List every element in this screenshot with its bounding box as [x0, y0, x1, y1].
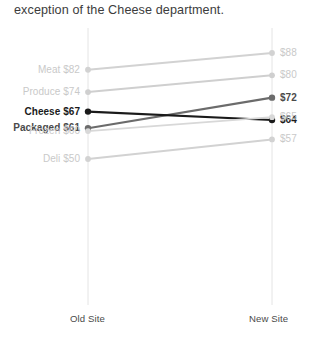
- right-label-meat: $88: [280, 47, 297, 58]
- slope-line-produce[interactable]: [88, 75, 272, 92]
- right-label-packaged: $72: [280, 92, 297, 103]
- data-point-cheese-old-site[interactable]: [85, 108, 91, 114]
- left-label-frozen: Frozen $60: [29, 125, 80, 136]
- plot-area: Meat $82$88Produce $74$80Packaged $61$72…: [0, 0, 311, 340]
- data-point-frozen-old-site[interactable]: [85, 128, 91, 134]
- data-point-frozen-new-site[interactable]: [269, 114, 275, 120]
- axis-gridlines: [88, 28, 272, 305]
- data-point-packaged-new-site[interactable]: [269, 94, 275, 100]
- slope-lines-group: [88, 53, 272, 159]
- left-label-cheese: Cheese $67: [24, 106, 80, 117]
- left-label-meat: Meat $82: [38, 64, 80, 75]
- data-point-produce-old-site[interactable]: [85, 89, 91, 95]
- data-point-deli-old-site[interactable]: [85, 156, 91, 162]
- slope-line-meat[interactable]: [88, 53, 272, 70]
- right-label-produce: $80: [280, 69, 297, 80]
- slope-line-deli[interactable]: [88, 139, 272, 159]
- axis-label-old-site: Old Site: [70, 313, 105, 324]
- left-label-produce: Produce $74: [23, 86, 80, 97]
- right-label-frozen: $65: [280, 111, 297, 122]
- left-label-deli: Deli $50: [43, 153, 80, 164]
- axis-label-new-site: New Site: [249, 313, 288, 324]
- data-point-deli-new-site[interactable]: [269, 137, 275, 143]
- slope-chart-svg: [0, 0, 311, 340]
- right-label-deli: $57: [280, 133, 297, 144]
- slope-chart-figure: exception of the Cheese department. Meat…: [0, 0, 311, 340]
- data-point-produce-new-site[interactable]: [269, 72, 275, 78]
- data-point-meat-old-site[interactable]: [85, 67, 91, 73]
- data-point-meat-new-site[interactable]: [269, 50, 275, 56]
